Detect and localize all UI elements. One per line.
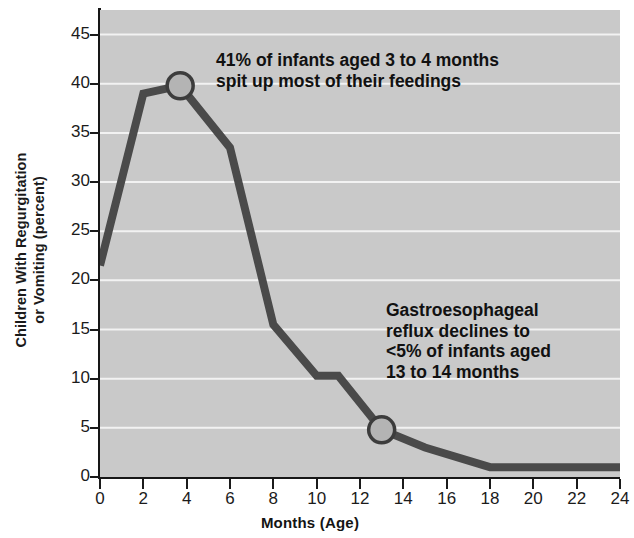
y-tick-mark xyxy=(90,230,99,232)
y-tick-mark xyxy=(90,329,99,331)
data-line xyxy=(100,86,620,467)
x-tick-mark xyxy=(489,479,491,489)
annotation-line: 41% of infants aged 3 to 4 months xyxy=(216,50,499,71)
x-tick-mark xyxy=(576,479,578,489)
x-tick-label: 20 xyxy=(513,489,553,509)
x-tick-mark xyxy=(186,479,188,489)
y-tick-mark xyxy=(90,83,99,85)
x-tick-mark xyxy=(532,479,534,489)
x-tick-label: 18 xyxy=(470,489,510,509)
y-tick-label: 20 xyxy=(30,269,90,289)
x-tick-label: 4 xyxy=(167,489,207,509)
x-tick-label: 22 xyxy=(557,489,597,509)
y-tick-label: 15 xyxy=(30,319,90,339)
x-tick-label: 10 xyxy=(297,489,337,509)
x-axis-label: Months (Age) xyxy=(0,514,620,531)
annotation-line: reflux declines to xyxy=(386,321,551,342)
annotation-line: 13 to 14 months xyxy=(386,362,551,383)
x-tick-mark xyxy=(359,479,361,489)
x-tick-mark xyxy=(229,479,231,489)
y-tick-label: 10 xyxy=(30,368,90,388)
data-series-group xyxy=(100,86,620,467)
x-tick-label: 6 xyxy=(210,489,250,509)
annotation-line: spit up most of their feedings xyxy=(216,71,499,92)
x-tick-label: 12 xyxy=(340,489,380,509)
annotation-decline: Gastroesophagealreflux declines to<5% of… xyxy=(386,300,551,383)
x-tick-label: 2 xyxy=(123,489,163,509)
x-tick-label: 8 xyxy=(253,489,293,509)
x-tick-mark xyxy=(619,479,621,489)
x-tick-mark xyxy=(99,479,101,489)
y-tick-mark xyxy=(90,427,99,429)
x-tick-mark xyxy=(142,479,144,489)
annotation-line: <5% of infants aged xyxy=(386,341,551,362)
y-tick-mark xyxy=(90,34,99,36)
data-markers-group xyxy=(167,73,395,443)
y-tick-label: 30 xyxy=(30,171,90,191)
y-tick-label: 25 xyxy=(30,220,90,240)
x-tick-label: 16 xyxy=(427,489,467,509)
y-tick-label: 45 xyxy=(30,24,90,44)
y-tick-mark xyxy=(90,378,99,380)
y-tick-label: 5 xyxy=(30,417,90,437)
y-tick-label: 0 xyxy=(30,466,90,486)
data-point-marker xyxy=(369,417,395,443)
x-tick-mark xyxy=(402,479,404,489)
y-tick-mark xyxy=(90,181,99,183)
y-axis-label-line-1: Children With Regurgitation xyxy=(12,60,30,440)
x-tick-mark xyxy=(272,479,274,489)
x-tick-mark xyxy=(446,479,448,489)
y-tick-mark xyxy=(90,279,99,281)
y-tick-mark xyxy=(90,132,99,134)
y-tick-label: 40 xyxy=(30,73,90,93)
annotation-peak: 41% of infants aged 3 to 4 monthsspit up… xyxy=(216,50,499,91)
x-tick-label: 0 xyxy=(80,489,120,509)
x-tick-label: 14 xyxy=(383,489,423,509)
y-tick-label: 35 xyxy=(30,122,90,142)
annotation-line: Gastroesophageal xyxy=(386,300,551,321)
x-tick-mark xyxy=(316,479,318,489)
x-tick-label: 24 xyxy=(600,489,634,509)
y-tick-mark xyxy=(90,476,99,478)
data-point-marker xyxy=(167,73,193,99)
